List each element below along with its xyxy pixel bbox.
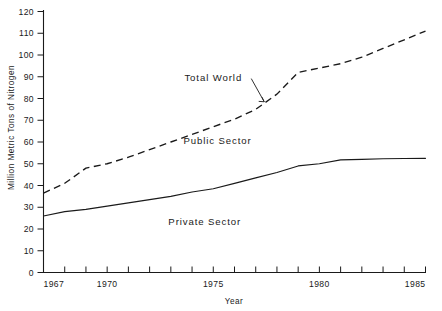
x-tick-label: 1975 bbox=[203, 279, 224, 289]
y-tick-label: 30 bbox=[24, 202, 34, 212]
y-tick-label: 0 bbox=[29, 268, 34, 278]
y-tick-label: 70 bbox=[24, 115, 34, 125]
x-axis-tick-labels: 19671970197519801985 bbox=[44, 279, 426, 289]
annotation-arrowhead bbox=[259, 97, 265, 102]
series-annotations: Total WorldPublic SectorPrivate Sector bbox=[168, 72, 264, 227]
y-tick-label: 80 bbox=[24, 94, 34, 104]
x-axis-tick-group bbox=[44, 267, 426, 273]
x-tick-label: 1980 bbox=[309, 279, 330, 289]
x-axis-title: Year bbox=[225, 297, 244, 306]
y-tick-label: 110 bbox=[19, 28, 34, 38]
y-axis-title: Million Metric Tons of Nitrogen bbox=[7, 65, 16, 190]
y-tick-label: 40 bbox=[24, 181, 34, 191]
y-tick-label: 20 bbox=[24, 224, 34, 234]
y-axis-tick-group bbox=[38, 12, 44, 273]
series-line-private-sector bbox=[44, 158, 426, 216]
y-tick-label: 50 bbox=[24, 159, 34, 169]
annotation-label: Public Sector bbox=[183, 135, 251, 146]
nitrogen-consumption-chart: 0102030405060708090100110120 19671970197… bbox=[0, 0, 442, 311]
y-tick-label: 90 bbox=[24, 72, 34, 82]
y-tick-label: 100 bbox=[18, 50, 34, 60]
y-tick-label: 60 bbox=[24, 137, 34, 147]
y-axis-tick-labels: 0102030405060708090100110120 bbox=[18, 7, 34, 278]
x-tick-label: 1970 bbox=[97, 279, 118, 289]
annotation-label: Total World bbox=[184, 72, 242, 83]
y-tick-label: 120 bbox=[18, 7, 34, 17]
y-tick-label: 10 bbox=[24, 246, 34, 256]
x-tick-label: 1985 bbox=[405, 279, 426, 289]
x-tick-label: 1967 bbox=[44, 279, 65, 289]
series-line-total-world bbox=[44, 31, 426, 193]
chart-canvas: 0102030405060708090100110120 19671970197… bbox=[0, 0, 442, 311]
annotation-label: Private Sector bbox=[168, 216, 241, 227]
